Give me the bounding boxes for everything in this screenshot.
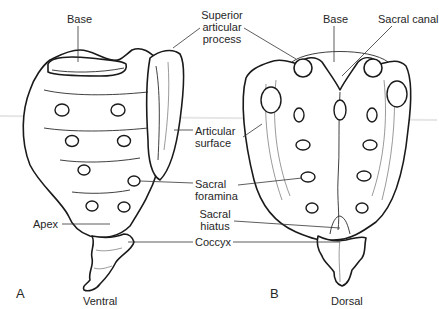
- label-sacral-hiatus: Sacral hiatus: [198, 208, 232, 232]
- ventral-sacrum-drawing: [23, 49, 184, 291]
- label-articular-surface: Articular surface: [195, 125, 235, 149]
- label-line: Superior: [201, 9, 243, 21]
- panel-letter-a: A: [16, 286, 25, 301]
- label-base-dorsal: Base: [323, 13, 348, 25]
- view-name-dorsal: Dorsal: [331, 295, 363, 307]
- label-line: hiatus: [198, 220, 232, 232]
- label-line: surface: [195, 137, 235, 149]
- label-superior-articular-process: Superior articular process: [201, 9, 243, 45]
- label-coccyx: Coccyx: [195, 236, 231, 248]
- label-line: foramina: [195, 190, 238, 202]
- label-line: articular: [201, 21, 243, 33]
- panel-letter-b: B: [270, 286, 279, 301]
- label-line: Sacral: [195, 178, 238, 190]
- label-line: Sacral: [198, 208, 232, 220]
- label-sacral-canal: Sacral canal: [378, 13, 439, 25]
- view-name-ventral: Ventral: [83, 295, 117, 307]
- label-sacral-foramina: Sacral foramina: [195, 178, 238, 202]
- dorsal-sacrum-drawing: [243, 52, 411, 287]
- label-line: process: [201, 33, 243, 45]
- label-apex: Apex: [33, 218, 58, 230]
- label-line: Articular: [195, 125, 235, 137]
- label-base-ventral: Base: [67, 13, 92, 25]
